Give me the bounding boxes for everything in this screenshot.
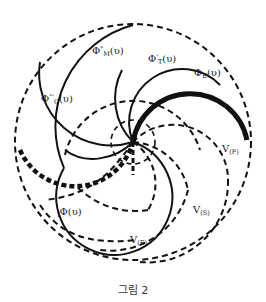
v-p-lower-arc — [140, 180, 228, 262]
label-phi-e: ΦE(υ) — [194, 68, 221, 80]
label-phi-i: IΦ(υ) — [57, 207, 82, 219]
v-e-lower-arc — [75, 185, 148, 211]
figure-caption: 그림 2 — [0, 281, 266, 297]
label-v-s: V(S) — [193, 205, 210, 217]
spiral-circle-diagram — [0, 0, 266, 270]
label-phi-m: Φ"M(υ) — [92, 46, 124, 58]
phi-i-arc — [20, 142, 133, 186]
phi-m-arc — [56, 142, 172, 255]
label-v-e: V(E) — [130, 235, 147, 247]
pivot-point — [131, 140, 136, 145]
label-phi-c: Φ"'C(υ) — [41, 94, 73, 106]
label-phi-t: Φ'T(υ) — [148, 54, 176, 66]
label-v-p: V(P) — [222, 144, 239, 156]
lower-left-dashed-arc — [40, 205, 135, 241]
phi-e-arc — [133, 94, 247, 142]
v-p-arc — [133, 125, 228, 180]
